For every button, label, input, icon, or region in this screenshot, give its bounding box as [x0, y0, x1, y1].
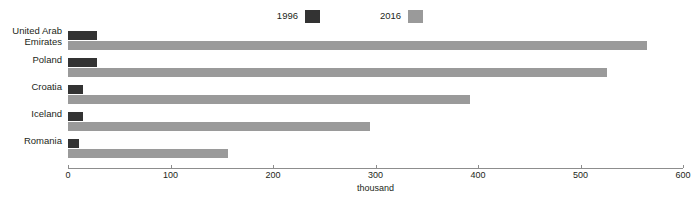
x-tick-label: 200	[265, 170, 280, 180]
x-tick-label: 100	[163, 170, 178, 180]
x-tick-mark	[171, 165, 172, 168]
bar-group	[68, 136, 700, 163]
bar-group	[68, 109, 700, 136]
x-tick-label: 600	[675, 170, 690, 180]
bar-group	[68, 55, 700, 82]
category-label-united-arab-emirates: United Arab Emirates	[0, 26, 62, 47]
bar-1996-united-arab-emirates[interactable]	[68, 31, 97, 40]
bar-2016-romania[interactable]	[68, 149, 228, 158]
bar-row: Poland	[0, 55, 700, 82]
legend-item-1996[interactable]: 1996	[277, 10, 320, 23]
bar-1996-croatia[interactable]	[68, 85, 83, 94]
x-tick-label: 400	[470, 170, 485, 180]
bar-1996-iceland[interactable]	[68, 112, 83, 121]
bar-2016-united-arab-emirates[interactable]	[68, 41, 647, 50]
bar-row: Iceland	[0, 109, 700, 136]
legend-swatch-2016	[408, 10, 423, 23]
legend-item-2016[interactable]: 2016	[380, 10, 423, 23]
cut-off-title	[0, 0, 700, 6]
bar-2016-poland[interactable]	[68, 68, 607, 77]
bar-2016-croatia[interactable]	[68, 95, 470, 104]
x-axis-title: thousand	[68, 183, 683, 193]
category-label-iceland: Iceland	[0, 109, 62, 120]
bar-group	[68, 28, 700, 55]
category-label-croatia: Croatia	[0, 82, 62, 93]
category-label-poland: Poland	[0, 55, 62, 66]
bar-row: United Arab Emirates	[0, 28, 700, 55]
bar-rows: United Arab EmiratesPolandCroatiaIceland…	[0, 28, 700, 163]
x-tick-mark	[376, 165, 377, 168]
legend-swatch-1996	[305, 10, 320, 23]
x-tick-mark	[683, 165, 684, 168]
x-tick-mark	[478, 165, 479, 168]
bar-row: Croatia	[0, 82, 700, 109]
cut-off-footer	[2, 198, 322, 201]
x-tick-label: 300	[368, 170, 383, 180]
x-axis-ticks: 0100200300400500600	[0, 168, 700, 184]
legend-label-1996: 1996	[277, 11, 298, 21]
bar-chart-plot-area: United Arab EmiratesPolandCroatiaIceland…	[0, 28, 700, 168]
category-label-romania: Romania	[0, 136, 62, 147]
x-tick-label: 500	[573, 170, 588, 180]
bar-1996-poland[interactable]	[68, 58, 97, 67]
x-tick-label: 0	[65, 170, 70, 180]
x-tick-mark	[581, 165, 582, 168]
bar-group	[68, 82, 700, 109]
x-tick-mark	[68, 165, 69, 168]
bar-2016-iceland[interactable]	[68, 122, 370, 131]
x-tick-mark	[273, 165, 274, 168]
legend-label-2016: 2016	[380, 11, 401, 21]
chart-legend: 1996 2016	[0, 7, 700, 25]
bar-1996-romania[interactable]	[68, 139, 79, 148]
bar-row: Romania	[0, 136, 700, 163]
